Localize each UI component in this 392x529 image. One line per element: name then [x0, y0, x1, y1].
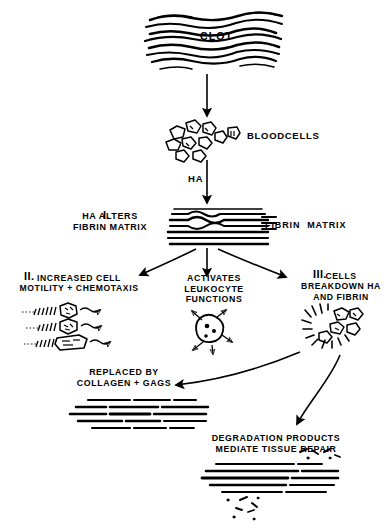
label-ha: HA: [188, 173, 204, 185]
label-step1-line1: HA ALTERS: [82, 211, 138, 221]
label-step2: INCREASED CELLMOTILITY + CHEMOTAXIS: [6, 273, 152, 294]
figure-canvas: CLOT BLOODCELLS HA I. HA ALTERSFIBRIN MA…: [0, 0, 392, 529]
label-step3-line3: AND FIBRIN: [313, 292, 369, 302]
label-activates-leukocyte: ACTIVATESLEUKOCYTEFUNCTIONS: [178, 273, 250, 305]
degradation-band-illustration: [202, 464, 338, 492]
label-center-line1: ACTIVATES: [187, 273, 241, 283]
label-step1: HA ALTERSFIBRIN MATRIX: [45, 211, 175, 233]
label-step3-line2: BREAKDOWN HA: [301, 281, 381, 291]
label-center-line2: LEUKOCYTE: [184, 284, 244, 294]
label-bloodcells: BLOODCELLS: [247, 130, 319, 142]
label-degradation-line2: MEDIATE TISSUE REPAIR: [216, 444, 337, 454]
collagen-band-illustration: [70, 400, 208, 428]
label-center-line3: FUNCTIONS: [186, 294, 243, 304]
label-step3-line1: CELLS: [325, 271, 356, 281]
label-step2-line2: MOTILITY + CHEMOTAXIS: [20, 283, 139, 293]
migrating-cells-illustration: [22, 303, 110, 350]
label-degradation-line1: DEGRADATION PRODUCTS: [212, 433, 341, 443]
label-fibrin-matrix-right: FIBRIN MATRIX: [265, 220, 346, 231]
label-step2-line1: INCREASED CELL: [37, 273, 121, 283]
connector-breakdown-to-collagen: [176, 352, 300, 385]
connector-fork-left: [140, 249, 196, 275]
label-clot: CLOT: [200, 30, 233, 43]
leukocyte-illustration: [192, 310, 232, 354]
bloodcell-cluster-illustration: [166, 120, 240, 162]
label-step3: CELLSBREAKDOWN HAAND FIBRIN: [294, 271, 388, 302]
label-replaced-line1: REPLACED BY: [89, 367, 159, 377]
label-degradation-products: DEGRADATION PRODUCTSMEDIATE TISSUE REPAI…: [196, 433, 356, 454]
breakdown-cluster-illustration: [302, 304, 363, 348]
label-replaced-line2: COLLAGEN + GAGS: [77, 378, 171, 388]
label-step1-line2: FIBRIN MATRIX: [73, 222, 147, 232]
label-replaced-by-collagen: REPLACED BYCOLLAGEN + GAGS: [57, 367, 191, 388]
connector-breakdown-to-degradation: [297, 355, 340, 424]
fibrin-matrix-band-illustration: [168, 209, 276, 244]
